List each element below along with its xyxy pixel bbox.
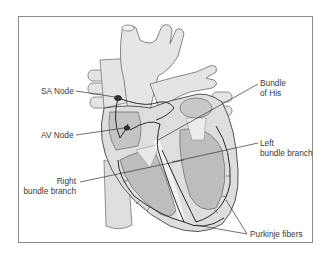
av-node — [124, 126, 130, 130]
sa-node — [115, 95, 122, 100]
label-av-node: AV Node — [41, 130, 74, 140]
label-left-bundle-branch: Left bundle branch — [260, 138, 313, 158]
left-atrium — [180, 98, 212, 118]
label-purkinje-fibers: Purkinje fibers — [250, 229, 303, 239]
label-bundle-of-his: Bundle of His — [260, 78, 286, 98]
heart-illustration — [0, 0, 330, 255]
label-right-bundle-branch: Right bundle branch — [18, 176, 76, 196]
leader-purkinje-1 — [226, 200, 247, 234]
label-sa-node: SA Node — [41, 86, 74, 96]
aorta-opening — [122, 25, 134, 31]
